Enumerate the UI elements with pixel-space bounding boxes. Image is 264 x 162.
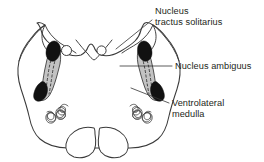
central-canal-circle-right xyxy=(97,46,106,55)
label-nucleus-ambiguus: Nucleus ambiguus xyxy=(175,61,252,71)
label-nucleus-tractus-solitarius-line2: tractus solitarius xyxy=(155,17,223,27)
medulla-diagram: Nucleus tractus solitarius Nucleus ambig… xyxy=(0,0,264,162)
central-canal-circle-left xyxy=(62,46,72,56)
label-ventrolateral-medulla-line2: medulla xyxy=(172,109,205,119)
medulla-figure: Nucleus tractus solitarius Nucleus ambig… xyxy=(0,0,264,162)
label-nucleus-tractus-solitarius-line1: Nucleus xyxy=(155,6,189,16)
label-ventrolateral-medulla-line1: Ventrolateral xyxy=(172,98,224,108)
